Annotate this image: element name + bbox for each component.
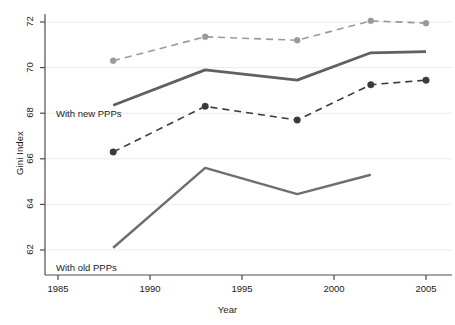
data-point bbox=[110, 149, 117, 156]
x-tick-label: 1985 bbox=[41, 283, 75, 294]
data-point bbox=[423, 20, 429, 26]
y-tick-label: 64 bbox=[24, 194, 35, 214]
y-tick-label: 70 bbox=[24, 57, 35, 77]
series-line-3 bbox=[113, 168, 371, 248]
y-tick-label: 68 bbox=[24, 103, 35, 123]
data-point bbox=[423, 77, 430, 84]
chart-canvas bbox=[0, 0, 455, 325]
y-tick-label: 66 bbox=[24, 148, 35, 168]
series-line-1 bbox=[113, 52, 426, 106]
data-point bbox=[294, 117, 301, 124]
x-tick-label: 2005 bbox=[409, 283, 443, 294]
series-line-0 bbox=[113, 21, 426, 61]
axes-group bbox=[40, 14, 452, 280]
plot-series-group bbox=[110, 18, 429, 248]
data-point bbox=[110, 58, 116, 64]
gridlines bbox=[45, 22, 452, 250]
data-point bbox=[368, 18, 374, 24]
data-point bbox=[368, 81, 375, 88]
data-point bbox=[202, 34, 208, 40]
data-point bbox=[202, 103, 209, 110]
data-point bbox=[294, 37, 300, 43]
gini-index-line-chart: Gini Index Year 626466687072198519901995… bbox=[0, 0, 455, 325]
x-axis-title: Year bbox=[0, 304, 455, 315]
series-annotation: With new PPPs bbox=[56, 108, 121, 119]
x-tick-label: 1990 bbox=[133, 283, 167, 294]
x-axis-title-text: Year bbox=[218, 304, 238, 315]
series-annotation: With old PPPs bbox=[56, 262, 117, 273]
y-tick-label: 72 bbox=[24, 12, 35, 32]
y-tick-label: 62 bbox=[24, 240, 35, 260]
x-tick-label: 1995 bbox=[225, 283, 259, 294]
x-tick-label: 2000 bbox=[317, 283, 351, 294]
series-line-2 bbox=[113, 80, 426, 152]
